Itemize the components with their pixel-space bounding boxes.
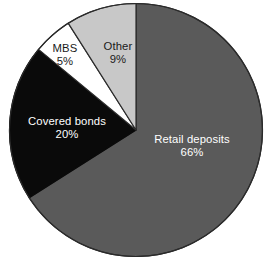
pie-chart: Retail deposits 66% Covered bonds 20% MB… [0,0,272,261]
pie-chart-canvas [0,0,272,261]
pie-slices [10,4,263,257]
